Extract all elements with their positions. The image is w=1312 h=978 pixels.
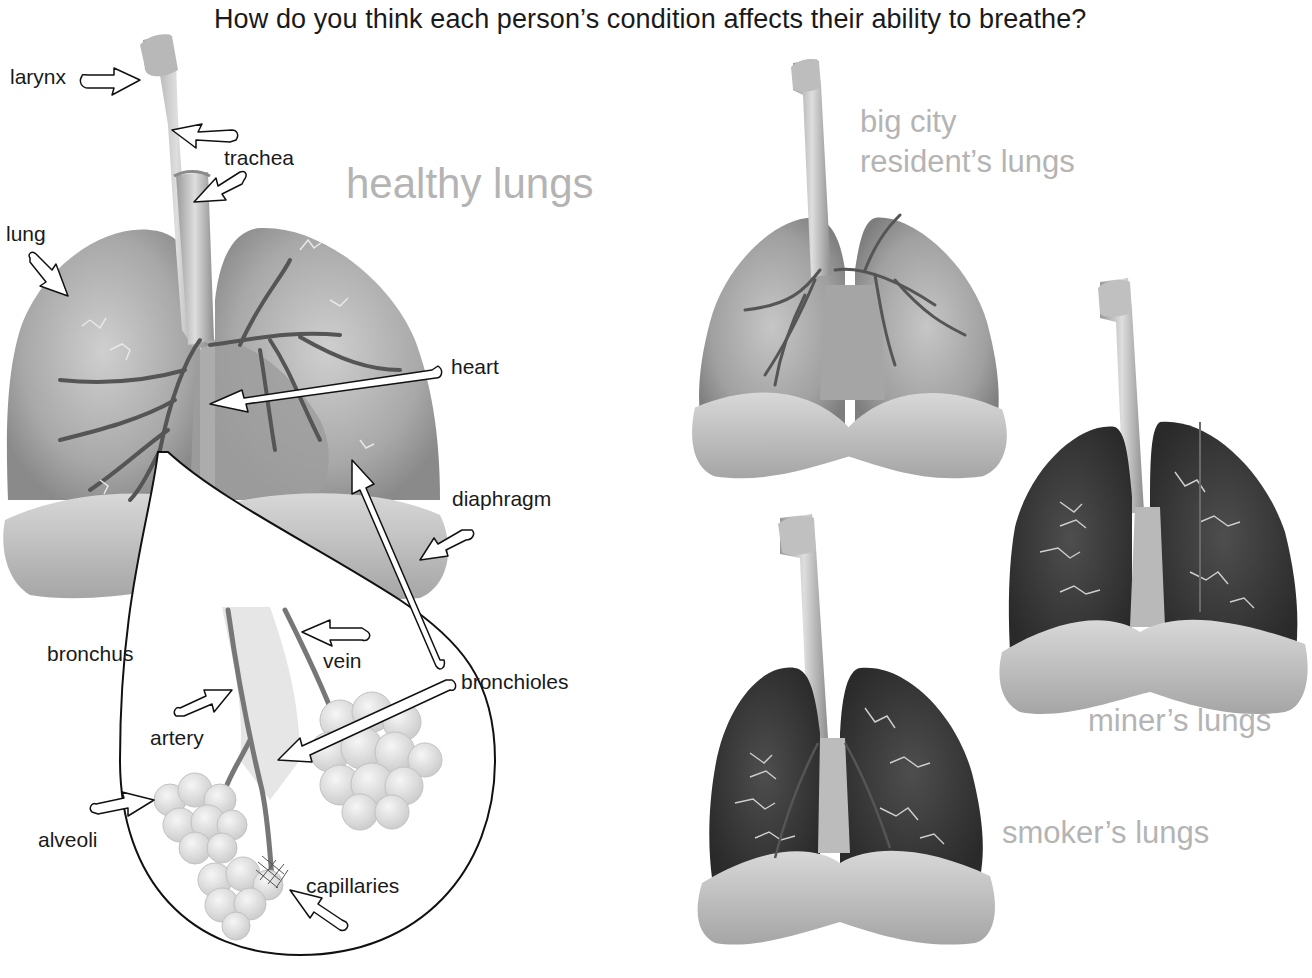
miner-lungs-caption: miner’s lungs [1088, 703, 1271, 739]
label-vein: vein [323, 649, 362, 673]
smoker-lungs-figure [698, 514, 995, 945]
label-lung: lung [6, 222, 46, 246]
miner-lungs-figure [999, 278, 1307, 714]
label-capillaries: capillaries [306, 874, 399, 898]
label-diaphragm: diaphragm [452, 487, 551, 511]
label-bronchioles: bronchioles [461, 670, 568, 694]
label-alveoli: alveoli [38, 828, 98, 852]
label-trachea: trachea [224, 146, 294, 170]
healthy-lungs-caption: healthy lungs [346, 160, 594, 208]
question-title: How do you think each person’s condition… [214, 4, 1086, 35]
label-larynx: larynx [10, 65, 66, 89]
smoker-lungs-caption: smoker’s lungs [1002, 815, 1209, 851]
city-lungs-caption-line1: big city [860, 104, 956, 140]
label-heart: heart [451, 355, 499, 379]
city-lungs-caption-line2: resident’s lungs [860, 144, 1075, 180]
city-lungs-figure [692, 59, 1007, 478]
label-bronchus: bronchus [47, 642, 133, 666]
label-artery: artery [150, 726, 204, 750]
